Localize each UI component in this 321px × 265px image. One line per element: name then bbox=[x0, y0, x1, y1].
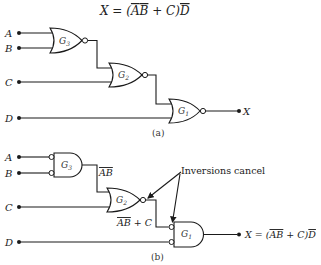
logic-diagram-figure: X = (AB + C)D A B C D G3 G2 bbox=[0, 0, 321, 265]
inversions-cancel-annotation: Inversions cancel bbox=[181, 165, 265, 176]
output-equation: X = (AB + C)D bbox=[244, 229, 316, 240]
inversion-bubble bbox=[49, 171, 54, 176]
title-equation: X = (AB + C)D bbox=[99, 4, 190, 18]
inversion-bubble bbox=[49, 155, 54, 160]
input-label-d: D bbox=[4, 237, 13, 248]
output-terminal-x bbox=[237, 109, 241, 113]
inversion-bubble bbox=[169, 225, 174, 230]
annotation-arrow bbox=[148, 172, 181, 198]
gate-g1-and-inverted-inputs: G1 bbox=[169, 222, 203, 247]
input-label-c: C bbox=[5, 77, 13, 88]
gate-g2-nor: G2 bbox=[107, 188, 146, 212]
input-label-b: B bbox=[4, 168, 12, 179]
inversion-bubble bbox=[142, 72, 147, 77]
gate-g3-nor: G3 bbox=[50, 28, 88, 53]
input-label-d: D bbox=[4, 113, 13, 124]
inversion-bubble bbox=[140, 197, 145, 202]
circuit-a: A B C D G3 G2 bbox=[4, 28, 251, 138]
input-label-a: A bbox=[4, 28, 12, 39]
annotation-arrow bbox=[173, 174, 181, 222]
caption-b: (b) bbox=[151, 252, 164, 262]
g3-output-label: AB bbox=[98, 167, 113, 178]
caption-a: (a) bbox=[152, 128, 164, 138]
gate-g1-nor: G1 bbox=[169, 99, 206, 123]
input-label-c: C bbox=[5, 202, 13, 213]
output-label-x: X bbox=[242, 106, 251, 117]
output-terminal-x bbox=[237, 233, 241, 237]
input-label-a: A bbox=[4, 152, 12, 163]
svg-text:X = (AB + C)D: X = (AB + C)D bbox=[99, 4, 190, 18]
inversion-bubble bbox=[82, 38, 87, 43]
gate-g2-nor: G2 bbox=[109, 63, 148, 87]
g2-output-label: AB + C bbox=[116, 217, 153, 228]
circuit-b: A B C D G3 AB G2 AB + C bbox=[4, 152, 316, 262]
inversion-bubble bbox=[200, 108, 205, 113]
inversion-bubble bbox=[169, 240, 174, 245]
gate-g3-and-inverted-inputs: G3 bbox=[49, 153, 82, 177]
input-label-b: B bbox=[4, 43, 12, 54]
